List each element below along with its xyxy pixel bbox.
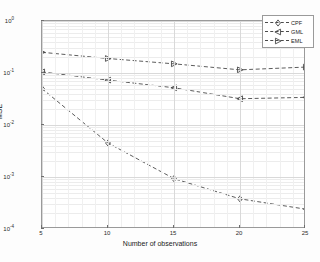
gridline-minor-vertical (95, 21, 96, 227)
legend-item-cpf[interactable]: CPF (265, 18, 311, 27)
y-tick-exponent: -2 (10, 120, 14, 125)
gridline-minor-vertical (148, 21, 149, 227)
legend-marker-diamond (274, 19, 282, 27)
data-point-marker-triangle-right (275, 38, 281, 44)
gridline-major-horizontal (42, 177, 304, 178)
gridline-major-vertical (108, 21, 109, 227)
data-point-marker-diamond (304, 206, 305, 212)
x-tick-mark (304, 225, 305, 228)
x-tick-label: 25 (302, 230, 309, 236)
y-tick-mantissa: 10 (3, 174, 10, 180)
data-point-marker-triangle-left (275, 29, 281, 35)
data-point-marker-diamond (276, 20, 281, 26)
gridline-major-vertical (174, 21, 175, 227)
gridline-minor-vertical (280, 21, 281, 227)
legend-sample (265, 18, 289, 27)
y-tick-label: 10-2 (0, 120, 14, 128)
y-tick-mantissa: 10 (3, 226, 10, 232)
x-tick-label: 5 (39, 230, 42, 236)
gridline-minor-vertical (200, 21, 201, 227)
x-tick-label: 15 (170, 230, 177, 236)
y-tick-mark (41, 228, 44, 229)
gridline-minor-vertical (55, 21, 56, 227)
gridline-minor-vertical (266, 21, 267, 227)
legend-marker-triangle-left (274, 28, 282, 36)
gridline-minor-vertical (134, 21, 135, 227)
x-tick-label: 10 (104, 230, 111, 236)
x-axis-label: Number of observations (0, 240, 320, 247)
series-eml (41, 49, 305, 72)
y-axis-label: MSE (0, 104, 3, 119)
y-tick-exponent: -1 (10, 68, 14, 73)
legend-sample (265, 27, 289, 36)
y-tick-label: 10-4 (0, 224, 14, 232)
y-tick-label: 100 (0, 16, 14, 24)
x-tick-mark (41, 225, 42, 228)
gridline-minor-vertical (227, 21, 228, 227)
y-tick-mantissa: 10 (3, 122, 10, 128)
y-tick-label: 10-1 (0, 68, 14, 76)
gridline-major-horizontal (42, 73, 304, 74)
legend-label: CPF (289, 20, 302, 26)
x-tick-mark (173, 225, 174, 228)
x-tick-mark (107, 225, 108, 228)
y-tick-mantissa: 10 (3, 70, 10, 76)
y-tick-label: 10-3 (0, 172, 14, 180)
gridline-minor-vertical (68, 21, 69, 227)
gridline-minor-vertical (121, 21, 122, 227)
y-tick-exponent: -4 (10, 224, 14, 229)
gridline-minor-vertical (214, 21, 215, 227)
y-tick-mark (41, 176, 44, 177)
legend-marker-triangle-right (274, 37, 282, 45)
x-tick-label: 20 (236, 230, 243, 236)
gridline-major-horizontal (42, 125, 304, 126)
gridline-minor-vertical (253, 21, 254, 227)
gridline-major-vertical (240, 21, 241, 227)
legend-sample (265, 36, 289, 45)
figure-canvas: MSE 10010-110-210-310-4 510152025 Number… (0, 0, 320, 262)
x-tick-mark (239, 225, 240, 228)
y-tick-exponent: 0 (11, 16, 14, 21)
chart-legend[interactable]: CPFGMLEML (262, 15, 314, 48)
y-tick-mark (41, 72, 44, 73)
legend-item-gml[interactable]: GML (265, 27, 311, 36)
legend-item-eml[interactable]: EML (265, 36, 311, 45)
gridline-minor-vertical (161, 21, 162, 227)
gridline-minor-vertical (187, 21, 188, 227)
y-tick-mark (41, 20, 44, 21)
plot-area (41, 20, 305, 228)
legend-label: GML (289, 29, 303, 35)
data-point-marker-triangle-right (303, 64, 305, 70)
y-tick-exponent: -3 (10, 172, 14, 177)
y-tick-mark (41, 124, 44, 125)
legend-label: EML (289, 38, 303, 44)
gridline-minor-vertical (293, 21, 294, 227)
gridline-minor-vertical (82, 21, 83, 227)
